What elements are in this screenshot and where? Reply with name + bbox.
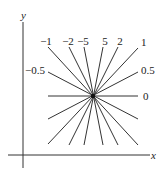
slope-lines: 00.5125−5−2−1−0.5 <box>25 35 155 145</box>
center-point <box>91 94 95 98</box>
slope-label: 2 <box>117 35 123 47</box>
x-axis-label: x <box>150 149 156 161</box>
slope-label: −5 <box>77 35 89 47</box>
slope-lines-diagram: x y 00.5125−5−2−1−0.5 <box>0 0 162 177</box>
slope-label: −0.5 <box>25 64 45 76</box>
slope-label: 5 <box>102 35 108 47</box>
slope-label: 0 <box>143 90 149 102</box>
slope-label: 1 <box>141 36 147 48</box>
slope-label: −1 <box>40 35 52 47</box>
slope-label: −2 <box>62 35 74 47</box>
y-axis-label: y <box>20 9 26 21</box>
slope-label: 0.5 <box>141 64 155 76</box>
